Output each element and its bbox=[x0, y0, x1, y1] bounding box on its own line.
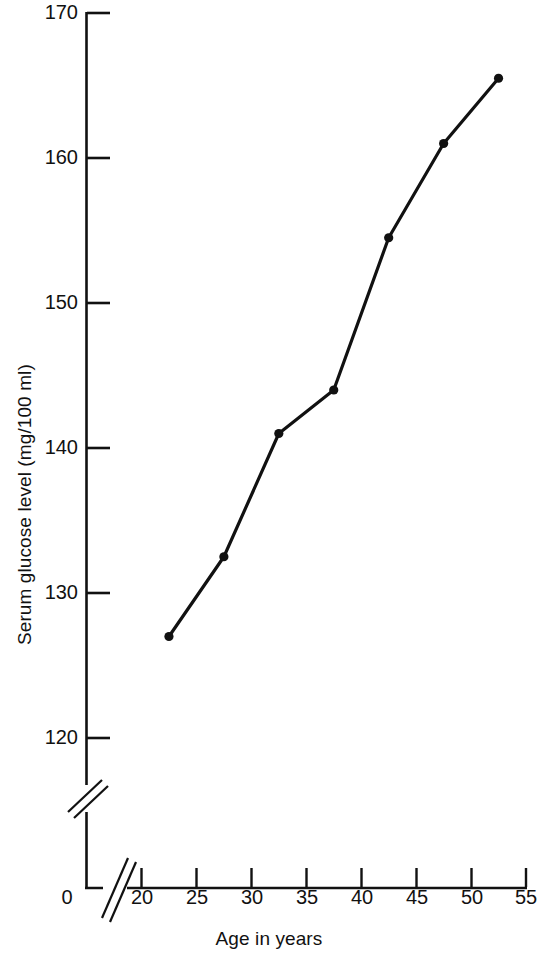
y-tick-label-150: 150 bbox=[26, 291, 78, 314]
x-tick-label-30: 30 bbox=[227, 886, 277, 909]
y-tick-label-160: 160 bbox=[26, 146, 78, 169]
x-tick-label-25: 25 bbox=[172, 886, 222, 909]
y-tick-label-120: 120 bbox=[26, 726, 78, 749]
chart-plot-area bbox=[0, 0, 538, 960]
data-point bbox=[384, 233, 393, 242]
x-tick-label-50: 50 bbox=[447, 886, 497, 909]
x-tick-label-40: 40 bbox=[337, 886, 387, 909]
data-point bbox=[164, 632, 173, 641]
data-point bbox=[494, 74, 503, 83]
x-axis-title: Age in years bbox=[0, 928, 538, 950]
origin-tick-label: 0 bbox=[56, 886, 78, 909]
data-point bbox=[329, 385, 338, 394]
x-tick-label-35: 35 bbox=[282, 886, 332, 909]
x-tick-label-20: 20 bbox=[117, 886, 167, 909]
data-point bbox=[274, 429, 283, 438]
data-point bbox=[219, 552, 228, 561]
x-tick-label-45: 45 bbox=[392, 886, 442, 909]
data-point bbox=[439, 139, 448, 148]
y-tick-label-170: 170 bbox=[26, 1, 78, 24]
y-tick-label-140: 140 bbox=[26, 436, 78, 459]
chart-figure: Serum glucose level (mg/100 ml) Age in y… bbox=[0, 0, 538, 960]
x-tick-label-55: 55 bbox=[501, 886, 538, 909]
y-tick-label-130: 130 bbox=[26, 581, 78, 604]
chart-background bbox=[0, 0, 538, 960]
